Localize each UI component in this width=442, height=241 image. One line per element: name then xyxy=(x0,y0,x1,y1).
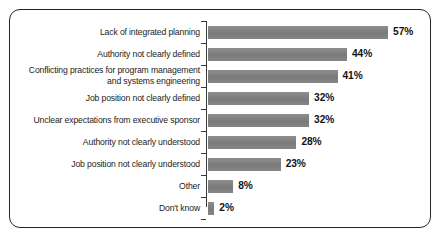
axis-tick xyxy=(201,87,206,88)
bar xyxy=(208,158,281,171)
bar-row: Unclear expectations from executive spon… xyxy=(10,109,432,131)
bar-track: 57% xyxy=(208,21,413,43)
bar-track: 23% xyxy=(208,153,306,175)
bar-category-label: Conflicting practices for program manage… xyxy=(23,65,200,87)
bar xyxy=(208,48,347,61)
axis-tick xyxy=(201,131,206,132)
axis-tick xyxy=(201,109,206,110)
bar-category-label: Authority not clearly defined xyxy=(23,43,200,65)
bar-value-label: 41% xyxy=(343,71,363,81)
bar-track: 41% xyxy=(208,65,363,87)
bar-value-label: 2% xyxy=(219,203,234,213)
bar-row: Authority not clearly defined44% xyxy=(10,43,432,65)
axis-tick xyxy=(201,197,206,198)
bar-row: Job position not clearly understood23% xyxy=(10,153,432,175)
bar-category-label: Lack of integrated planning xyxy=(23,21,200,43)
bar-category-label-line: Job position not clearly defined xyxy=(86,93,200,104)
axis-tick xyxy=(201,21,206,22)
bar-category-label: Authority not clearly understood xyxy=(23,131,200,153)
bar-category-label-line: Authority not clearly defined xyxy=(97,49,200,60)
bar-track: 28% xyxy=(208,131,322,153)
bar-value-label: 57% xyxy=(393,27,413,37)
bar-value-label: 44% xyxy=(352,49,372,59)
bar-value-label: 8% xyxy=(238,181,253,191)
bar-chart-plot-area: Lack of integrated planning57%Authority … xyxy=(10,10,432,229)
bar-category-label: Job position not clearly understood xyxy=(23,153,200,175)
bar-category-label-line: Other xyxy=(179,181,200,192)
bar-track: 44% xyxy=(208,43,372,65)
bar-track: 32% xyxy=(208,109,334,131)
bar-category-label-line: Authority not clearly understood xyxy=(83,137,200,148)
bar-value-label: 32% xyxy=(314,115,334,125)
bar-row: Job position not clearly defined32% xyxy=(10,87,432,109)
axis-tick xyxy=(201,65,206,66)
axis-tick xyxy=(201,153,206,154)
bar-category-label: Job position not clearly defined xyxy=(23,87,200,109)
bar-category-label-line: Lack of integrated planning xyxy=(100,27,200,38)
axis-tick xyxy=(201,219,206,220)
bar-value-label: 32% xyxy=(314,93,334,103)
bar-value-label: 28% xyxy=(301,137,321,147)
bar-track: 32% xyxy=(208,87,334,109)
bar xyxy=(208,114,309,127)
bar-row: Don't know2% xyxy=(10,197,432,219)
bar xyxy=(208,202,214,215)
bar-category-label: Don't know xyxy=(23,197,200,219)
axis-tick xyxy=(201,43,206,44)
bar-category-label-line: Job position not clearly understood xyxy=(71,159,200,170)
bar-row: Lack of integrated planning57% xyxy=(10,21,432,43)
bar-category-label-line: Unclear expectations from executive spon… xyxy=(33,115,200,126)
bar-category-label-line: and systems engineering xyxy=(107,76,200,87)
axis-tick xyxy=(201,175,206,176)
bar xyxy=(208,180,233,193)
bar-category-label: Unclear expectations from executive spon… xyxy=(23,109,200,131)
chart-frame: Lack of integrated planning57%Authority … xyxy=(9,9,431,228)
bar-category-label-line: Conflicting practices for program manage… xyxy=(29,65,200,76)
bar-category-label-line: Don't know xyxy=(159,203,200,214)
bar-row: Authority not clearly understood28% xyxy=(10,131,432,153)
bar xyxy=(208,70,338,83)
bar-track: 2% xyxy=(208,197,234,219)
bar-category-label: Other xyxy=(23,175,200,197)
bar-track: 8% xyxy=(208,175,253,197)
bar xyxy=(208,92,309,105)
bar xyxy=(208,26,388,39)
bar-value-label: 23% xyxy=(286,159,306,169)
bar xyxy=(208,136,296,149)
bar-row: Other8% xyxy=(10,175,432,197)
bar-row: Conflicting practices for program manage… xyxy=(10,65,432,87)
